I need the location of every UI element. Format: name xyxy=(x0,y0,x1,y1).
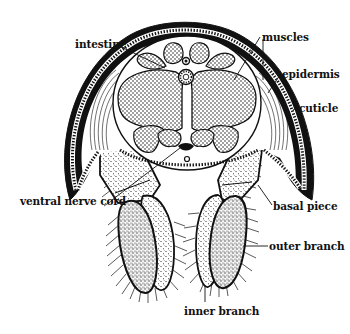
diagram-drawing xyxy=(0,0,350,334)
body-cavity xyxy=(113,36,261,170)
label-cuticle: cuticle xyxy=(299,103,338,114)
label-basal-piece: basal piece xyxy=(273,201,338,212)
label-outer-branch: outer branch xyxy=(269,241,345,252)
segment-cross-section-diagram: intestine muscles epidermis cuticle vent… xyxy=(0,0,350,334)
label-ventral-nerve-cord: ventral nerve cord xyxy=(20,196,126,207)
label-epidermis: epidermis xyxy=(282,69,340,80)
label-muscles: muscles xyxy=(262,32,309,43)
label-intestine: intestine xyxy=(75,39,126,50)
label-inner-branch: inner branch xyxy=(184,306,259,317)
